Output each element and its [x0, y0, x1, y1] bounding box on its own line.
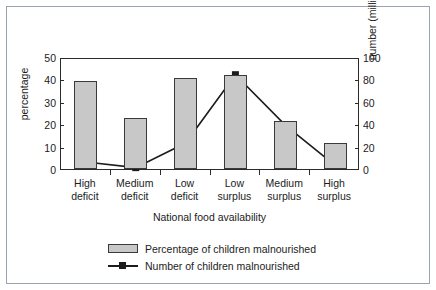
legend-item-percentage: Percentage of children malnourished: [108, 240, 358, 257]
plot-area: [60, 58, 359, 170]
y-axis-right-tick: [355, 103, 359, 104]
y-axis-right: 020406080100: [363, 52, 395, 176]
x-axis-category-label: Highdeficit: [60, 177, 110, 207]
y-axis-right-tick: [355, 80, 359, 81]
x-axis-category-label-line: Low: [160, 177, 210, 190]
y-axis-left: 01020304050: [26, 52, 56, 176]
chart-legend: Percentage of children malnourished Numb…: [108, 240, 358, 274]
x-axis-category-label: Highsurplus: [309, 177, 359, 207]
y-axis-right-tick-label: 80: [363, 75, 393, 85]
y-axis-left-tick: [60, 103, 64, 104]
x-axis-category-label: Lowdeficit: [160, 177, 210, 207]
x-axis-category-label-line: deficit: [110, 190, 160, 203]
x-axis-category-label-line: Medium: [110, 177, 160, 190]
x-axis-tick: [160, 170, 161, 175]
y-axis-left-tick: [60, 125, 64, 126]
y-axis-left-tick-label: 20: [30, 120, 56, 130]
y-axis-right-tick: [355, 125, 359, 126]
x-axis-category-label-line: surplus: [209, 190, 259, 203]
bar: [124, 118, 147, 169]
y-axis-left-tick-label: 40: [30, 75, 56, 85]
x-axis-category-label-line: surplus: [259, 190, 309, 203]
bar: [74, 81, 97, 169]
x-axis-tick: [110, 170, 111, 175]
y-axis-right-tick: [355, 148, 359, 149]
x-axis-category-label-line: High: [60, 177, 110, 190]
x-axis-category-label: Lowsurplus: [209, 177, 259, 207]
x-axis-tick: [210, 170, 211, 175]
x-axis-tick: [259, 170, 260, 175]
chart-figure: percentage 01020304050 number (millions)…: [0, 0, 436, 290]
legend-label: Percentage of children malnourished: [145, 243, 316, 255]
bar: [324, 143, 347, 169]
y-axis-left-tick-label: 50: [30, 53, 56, 63]
x-axis-tick: [309, 170, 310, 175]
y-axis-right-tick-label: 40: [363, 120, 393, 130]
x-axis-category-label-line: Low: [209, 177, 259, 190]
bar: [174, 78, 197, 169]
y-axis-left-tick-label: 0: [30, 165, 56, 175]
y-axis-left-tick-label: 30: [30, 98, 56, 108]
x-axis-category-label-line: Medium: [259, 177, 309, 190]
line-path: [86, 75, 335, 168]
line-series-layer: [61, 59, 360, 171]
bar-swatch-icon: [108, 244, 138, 253]
y-axis-right-tick-label: 20: [363, 143, 393, 153]
bar: [224, 75, 247, 169]
line-square-swatch-icon: [108, 261, 138, 270]
x-axis-category-label-line: deficit: [160, 190, 210, 203]
x-axis-labels: HighdeficitMediumdeficitLowdeficitLowsur…: [60, 177, 359, 207]
y-axis-right-tick-label: 0: [363, 165, 393, 175]
y-axis-left-tick: [60, 80, 64, 81]
x-axis-title: National food availability: [60, 211, 359, 223]
y-axis-right-tick-label: 60: [363, 98, 393, 108]
bar: [274, 121, 297, 169]
x-axis-category-label-line: High: [309, 177, 359, 190]
x-axis-category-label: Mediumdeficit: [110, 177, 160, 207]
x-axis-category-label: Mediumsurplus: [259, 177, 309, 207]
x-axis-category-label-line: surplus: [309, 190, 359, 203]
y-axis-left-tick: [60, 148, 64, 149]
x-axis-ticks: [60, 170, 359, 176]
x-axis-category-label-line: deficit: [60, 190, 110, 203]
legend-label: Number of children malnourished: [145, 260, 300, 272]
legend-item-number: Number of children malnourished: [108, 257, 358, 274]
y-axis-left-tick-label: 10: [30, 143, 56, 153]
y-axis-right-tick-label: 100: [363, 53, 393, 63]
